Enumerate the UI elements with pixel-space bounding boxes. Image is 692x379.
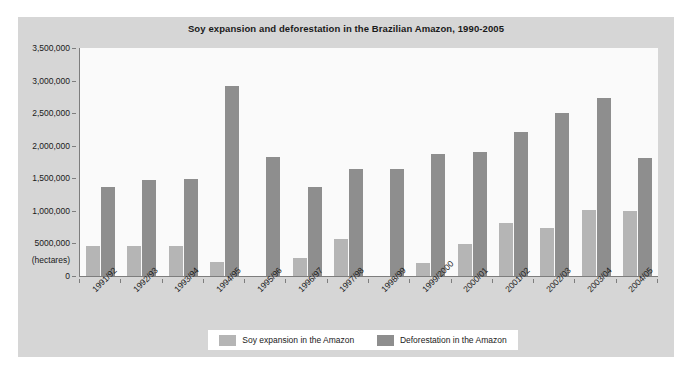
bar-group — [540, 48, 569, 276]
x-axis-tick-mark — [79, 279, 80, 283]
bar-soy-expansion — [416, 263, 430, 276]
x-axis-tick-mark — [203, 279, 204, 283]
y-axis-tick-mark — [72, 146, 76, 147]
bar-deforestation — [308, 187, 322, 276]
bar-soy-expansion — [293, 258, 307, 276]
bar-group — [210, 48, 239, 276]
bar-group — [375, 48, 404, 276]
x-axis-tick-mark — [533, 279, 534, 283]
bar-deforestation — [431, 154, 445, 276]
bar-deforestation — [101, 187, 115, 276]
x-axis-tick-mark — [285, 279, 286, 283]
bar-group — [86, 48, 115, 276]
bar-group — [127, 48, 156, 276]
y-axis-tick-label: (hectares) — [32, 255, 70, 265]
x-axis-tick-mark — [368, 279, 369, 283]
bar-soy-expansion — [623, 211, 637, 276]
y-axis-tick-label: 2,500,000 — [32, 108, 70, 118]
y-axis-tick-mark — [72, 276, 76, 277]
plot-area — [79, 48, 658, 277]
y-axis-tick-label: 1,000,000 — [32, 206, 70, 216]
bar-group — [582, 48, 611, 276]
y-axis-tick-label: 2,000,000 — [32, 141, 70, 151]
bar-deforestation — [349, 169, 363, 276]
y-axis-tick-label: 3,500,000 — [32, 43, 70, 53]
bar-deforestation — [390, 169, 404, 276]
y-axis-tick-mark — [72, 113, 76, 114]
x-axis-tick-mark — [162, 279, 163, 283]
chart-title: Soy expansion and deforestation in the B… — [18, 23, 674, 34]
bar-deforestation — [184, 179, 198, 276]
bar-soy-expansion — [86, 246, 100, 276]
y-axis: 3,500,0003,000,0002,500,0002,000,0001,50… — [18, 41, 76, 301]
bar-deforestation — [225, 86, 239, 276]
bar-soy-expansion — [210, 262, 224, 276]
bar-soy-expansion — [458, 244, 472, 276]
bar-soy-expansion — [169, 246, 183, 276]
x-axis-tick-mark — [657, 279, 658, 283]
bar-group — [334, 48, 363, 276]
x-axis-tick-mark — [244, 279, 245, 283]
y-axis-tick-label: 3,000,000 — [32, 76, 70, 86]
bar-deforestation — [266, 157, 280, 276]
bar-group — [293, 48, 322, 276]
y-axis-tick-mark — [72, 81, 76, 82]
legend-item[interactable]: Deforestation in the Amazon — [377, 335, 507, 346]
y-axis-tick-mark — [72, 178, 76, 179]
bar-deforestation — [555, 113, 569, 276]
chart-legend: Soy expansion in the AmazonDeforestation… — [208, 330, 518, 350]
bar-soy-expansion — [334, 239, 348, 276]
bar-deforestation — [514, 132, 528, 276]
legend-item[interactable]: Soy expansion in the Amazon — [219, 335, 354, 346]
y-axis-tick-label: 0 — [65, 271, 70, 281]
bar-soy-expansion — [582, 210, 596, 276]
y-axis-tick-label: 1,500,000 — [32, 173, 70, 183]
y-axis-tick-label: 5000,000 — [35, 238, 70, 248]
legend-label: Soy expansion in the Amazon — [242, 335, 354, 345]
bar-group — [623, 48, 652, 276]
x-axis-tick-mark — [409, 279, 410, 283]
x-axis-tick-mark — [327, 279, 328, 283]
bar-deforestation — [142, 180, 156, 276]
legend-swatch-icon — [219, 335, 236, 346]
y-axis-tick-mark — [72, 48, 76, 49]
legend-swatch-icon — [377, 335, 394, 346]
bar-deforestation — [597, 98, 611, 276]
x-axis-tick-mark — [616, 279, 617, 283]
bar-group — [169, 48, 198, 276]
bar-deforestation — [638, 158, 652, 276]
y-axis-tick-mark — [72, 243, 76, 244]
bar-soy-expansion — [127, 246, 141, 276]
x-axis-tick-mark — [120, 279, 121, 283]
bar-soy-expansion — [499, 223, 513, 276]
x-axis-tick-mark — [492, 279, 493, 283]
bar-group — [251, 48, 280, 276]
bar-deforestation — [473, 152, 487, 276]
bar-group — [416, 48, 445, 276]
bar-group — [499, 48, 528, 276]
bar-group — [458, 48, 487, 276]
legend-label: Deforestation in the Amazon — [400, 335, 507, 345]
x-axis-tick-mark — [451, 279, 452, 283]
chart-container: Soy expansion and deforestation in the B… — [18, 17, 674, 357]
y-axis-tick-mark — [72, 211, 76, 212]
bar-soy-expansion — [540, 228, 554, 276]
x-axis-tick-mark — [574, 279, 575, 283]
